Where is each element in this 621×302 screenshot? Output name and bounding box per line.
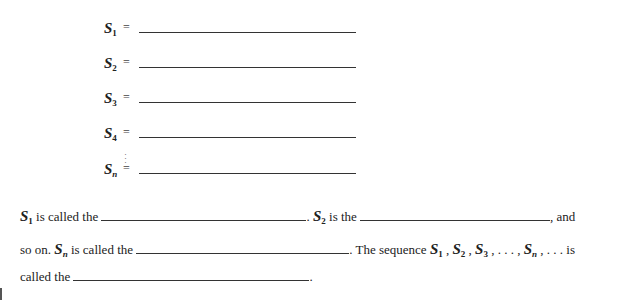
symbol-s3: S3 (475, 241, 488, 257)
text: is the (326, 209, 360, 224)
text: . (309, 269, 312, 284)
blank-s2-name-field[interactable] (360, 208, 550, 221)
blank-sn-name-field[interactable] (136, 241, 349, 254)
equals-sign: = (123, 161, 130, 176)
blank-s4-field[interactable] (139, 137, 356, 138)
blank-s3-field[interactable] (139, 102, 356, 103)
blank-sn-field[interactable] (139, 173, 356, 174)
equals-sign: = (123, 20, 130, 35)
text: , and (550, 209, 575, 224)
page-edge-mark (0, 288, 2, 300)
symbol-s2: S2 (313, 208, 326, 224)
symbol-s1: S1 (430, 241, 443, 257)
ellipsis: . . . , (498, 242, 524, 257)
blank-s1-name-field[interactable] (101, 208, 306, 221)
text: is called the (33, 209, 102, 224)
text: is called the (68, 242, 137, 257)
blank-s2-field[interactable] (139, 67, 356, 68)
equals-sign: = (123, 55, 130, 70)
text: , . . . is (537, 242, 575, 257)
symbol-s4: S4 (104, 125, 117, 143)
text: called the (20, 269, 73, 284)
blank-sequence-name-field[interactable] (73, 268, 309, 281)
symbol-s2: S2 (452, 241, 465, 257)
text: so on. (20, 242, 54, 257)
symbol-s3: S3 (104, 90, 117, 108)
comma: , (488, 242, 498, 257)
paragraph-line-3: called the . (20, 268, 313, 285)
symbol-sn: Sn (104, 161, 117, 179)
symbol-sn: Sn (54, 241, 67, 257)
paragraph-line-1: S1 is called the . S2 is the , and (20, 208, 575, 229)
paragraph-line-2: so on. Sn is called the . The sequence S… (20, 241, 575, 262)
symbol-s1: S1 (20, 208, 33, 224)
symbol-sn: Sn (524, 241, 537, 257)
equals-sign: = (123, 90, 130, 105)
blank-s1-field[interactable] (139, 32, 356, 33)
comma: , (465, 242, 475, 257)
symbol-s2: S2 (104, 55, 117, 73)
equals-sign: = (123, 125, 130, 140)
symbol-s1: S1 (104, 20, 117, 38)
text: . The sequence (349, 242, 430, 257)
